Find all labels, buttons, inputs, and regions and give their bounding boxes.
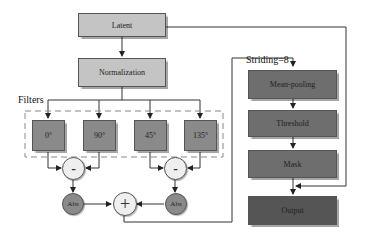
filters-label: Filters xyxy=(18,94,44,105)
mean-pooling-node: Mean-pooling xyxy=(248,70,337,99)
filter-135-node: 135° xyxy=(184,120,217,151)
normalization-node: Normalization xyxy=(78,58,166,87)
latent-node: Latent xyxy=(78,13,166,37)
minus-operator-right: - xyxy=(164,157,187,180)
threshold-node: Threshold xyxy=(248,110,337,137)
filter-90-node: 90° xyxy=(83,120,116,151)
plus-operator: + xyxy=(113,192,137,216)
abs-operator-right: Abs xyxy=(165,193,187,215)
output-node: Output xyxy=(248,196,337,225)
abs-operator-left: Abs xyxy=(62,193,84,215)
filter-0-node: 0° xyxy=(32,120,65,151)
minus-operator-left: - xyxy=(62,157,85,180)
striding-label: Striding=8 xyxy=(246,54,289,65)
mask-node: Mask xyxy=(248,150,337,178)
filter-45-node: 45° xyxy=(134,120,167,151)
